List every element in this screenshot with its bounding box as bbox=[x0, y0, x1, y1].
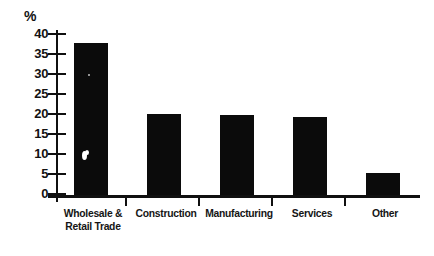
x-label-wholesale-retail-trade: Wholesale & Retail Trade bbox=[51, 207, 136, 232]
x-label-line: Manufacturing bbox=[197, 207, 282, 220]
y-axis-tick bbox=[48, 153, 66, 155]
x-label-line: Construction bbox=[124, 207, 209, 220]
bar-manufacturing bbox=[220, 115, 254, 195]
x-label-line: Services bbox=[270, 207, 355, 220]
x-label-line: Wholesale & bbox=[51, 207, 136, 220]
x-axis-separator-tick bbox=[125, 195, 127, 206]
y-tick-label: 35 bbox=[34, 47, 48, 60]
y-tick-label: 20 bbox=[34, 107, 48, 120]
scan-artifact bbox=[88, 74, 90, 76]
y-axis-tick bbox=[48, 93, 66, 95]
y-tick-label: 10 bbox=[34, 147, 48, 160]
y-tick-label: 25 bbox=[34, 87, 48, 100]
x-label-line: Retail Trade bbox=[51, 220, 136, 233]
y-axis-line bbox=[56, 30, 58, 202]
x-axis-line bbox=[48, 195, 420, 198]
y-tick-label: 15 bbox=[34, 127, 48, 140]
y-axis-tick bbox=[48, 73, 66, 75]
y-axis-tick bbox=[48, 173, 66, 175]
bar-chart: % 40 35 30 25 20 15 10 5 0 bbox=[0, 0, 434, 256]
y-axis-tick bbox=[48, 33, 66, 35]
y-axis-tick-labels: 40 35 30 25 20 15 10 5 0 bbox=[18, 33, 48, 195]
y-axis-tick bbox=[48, 53, 66, 55]
y-tick-label: 30 bbox=[34, 67, 48, 80]
y-tick-label: 0 bbox=[41, 187, 48, 200]
y-axis-tick bbox=[48, 133, 66, 135]
y-axis-tick bbox=[48, 193, 66, 195]
y-tick-label: 40 bbox=[34, 27, 48, 40]
bar-other bbox=[366, 173, 400, 195]
y-axis-tick bbox=[48, 113, 66, 115]
x-axis-separator-tick bbox=[198, 195, 200, 206]
x-label-line: Other bbox=[343, 207, 428, 220]
x-label-other: Other bbox=[343, 207, 428, 220]
scan-artifact bbox=[85, 150, 89, 155]
x-label-services: Services bbox=[270, 207, 355, 220]
bar-wholesale-retail-trade bbox=[74, 43, 108, 195]
bar-construction bbox=[147, 114, 181, 195]
y-axis-unit-label: % bbox=[24, 8, 36, 24]
plot-area bbox=[56, 33, 420, 195]
x-axis-separator-tick bbox=[271, 195, 273, 206]
y-tick-label: 5 bbox=[41, 167, 48, 180]
x-axis-category-labels: Wholesale & Retail Trade Construction Ma… bbox=[56, 207, 428, 251]
x-label-manufacturing: Manufacturing bbox=[197, 207, 282, 220]
bar-services bbox=[293, 117, 327, 195]
x-label-construction: Construction bbox=[124, 207, 209, 220]
x-axis-separator-tick bbox=[344, 195, 346, 206]
